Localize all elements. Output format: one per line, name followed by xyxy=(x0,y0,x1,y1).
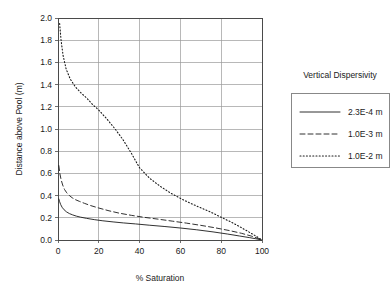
legend-label: 1.0E-2 m xyxy=(348,151,383,161)
tick-label-y: 0.0 xyxy=(40,235,52,245)
chart-figure: 0.00.20.40.60.81.01.21.41.61.82.0 020406… xyxy=(0,0,390,291)
tick-label-x: 20 xyxy=(94,246,104,256)
tick-label-y: 1.8 xyxy=(40,35,52,45)
tick-label-y: 1.6 xyxy=(40,57,52,67)
tick-label-x: 60 xyxy=(176,246,186,256)
tick-label-x: 80 xyxy=(216,246,226,256)
legend-label: 1.0E-3 m xyxy=(348,129,383,139)
legend-title: Vertical Dispersivity xyxy=(303,70,377,80)
tick-label-y: 1.0 xyxy=(40,124,52,134)
tick-label-y: 2.0 xyxy=(40,13,52,23)
tick-label-x: 100 xyxy=(255,246,269,256)
x-axis-tick-labels: 020406080100 xyxy=(56,246,270,256)
y-axis-title: Distance above Pool (m) xyxy=(14,82,24,175)
x-axis-title: % Saturation xyxy=(136,273,185,283)
legend-label: 2.3E-4 m xyxy=(348,107,383,117)
tick-label-y: 0.2 xyxy=(40,213,52,223)
legend: Vertical Dispersivity 2.3E-4 m1.0E-3 m1.… xyxy=(291,70,389,167)
tick-label-y: 0.4 xyxy=(40,191,52,201)
saturation-vs-distance-chart: 0.00.20.40.60.81.01.21.41.61.82.0 020406… xyxy=(0,0,390,291)
legend-items: 2.3E-4 m1.0E-3 m1.0E-2 m xyxy=(300,107,383,161)
tick-label-y: 0.6 xyxy=(40,168,52,178)
tick-label-x: 40 xyxy=(135,246,145,256)
y-axis-tick-labels: 0.00.20.40.60.81.01.21.41.61.82.0 xyxy=(40,13,52,245)
tick-label-y: 0.8 xyxy=(40,146,52,156)
tick-label-y: 1.2 xyxy=(40,102,52,112)
tick-label-y: 1.4 xyxy=(40,80,52,90)
tick-label-x: 0 xyxy=(56,246,61,256)
